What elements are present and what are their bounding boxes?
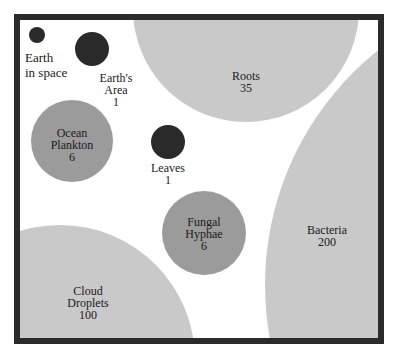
diagram-frame: Earth in space Earth's Area 1 Roots 35 O…	[14, 14, 384, 344]
cloud-droplets-label: Cloud Droplets 100	[67, 285, 108, 321]
earth-in-space-label: Earth in space	[25, 50, 67, 80]
leaves-label: Leaves 1	[151, 162, 185, 186]
bacteria-label: Bacteria 200	[307, 224, 347, 248]
earths-area-circle	[75, 32, 109, 66]
fungal-hyphae-label: Fungal Hyphae 6	[185, 216, 222, 252]
earths-area-label: Earth's Area 1	[100, 72, 133, 108]
earth-in-space-circle	[29, 27, 45, 43]
ocean-plankton-label: Ocean Plankton 6	[51, 127, 94, 163]
leaves-circle	[151, 125, 185, 159]
roots-label: Roots 35	[232, 70, 260, 94]
